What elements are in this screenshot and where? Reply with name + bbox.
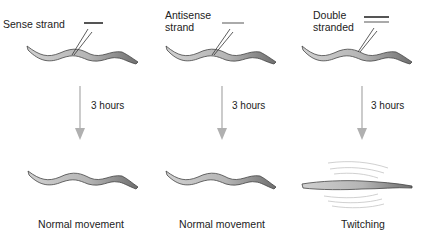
double-stranded-label-line2: stranded	[313, 21, 354, 33]
time-label: 3 hours	[371, 100, 404, 111]
antisense-strand-label-line1: Antisense	[165, 9, 211, 21]
worm-sense-before	[27, 46, 138, 64]
needle-icon	[358, 28, 377, 52]
worm-antisense-before	[166, 46, 276, 64]
double-stranded-label-line1: Double	[313, 9, 346, 21]
outcome-label: Normal movement	[10, 218, 152, 230]
outcome-label: Normal movement	[151, 218, 293, 230]
time-label: 3 hours	[232, 100, 265, 111]
outcome-label: Twitching	[292, 218, 426, 230]
arrow-down-icon	[217, 86, 227, 140]
worm-double-before	[302, 46, 412, 64]
diagram-canvas	[0, 0, 426, 240]
antisense-strand-label-line2: strand	[165, 21, 194, 33]
worm-double-after-twitching	[302, 162, 412, 208]
arrow-down-icon	[75, 86, 85, 140]
worm-antisense-after	[166, 171, 276, 189]
sense-strand-label: Sense strand	[3, 18, 65, 30]
arrow-down-icon	[357, 86, 367, 140]
time-label: 3 hours	[91, 100, 124, 111]
worm-sense-after	[28, 171, 138, 189]
